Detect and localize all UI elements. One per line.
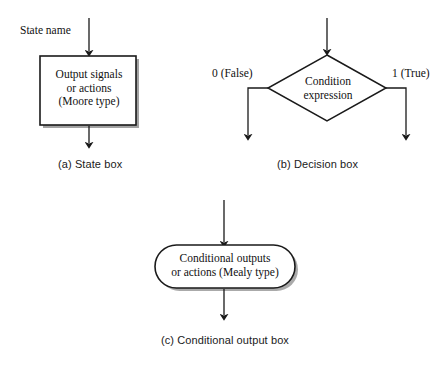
state-box-text: Output signals or actions (Moore type) xyxy=(41,68,137,109)
state-box-caption: (a) State box xyxy=(58,158,122,170)
decision-branch-false-path xyxy=(248,88,268,135)
decision-box-caption: (b) Decision box xyxy=(277,158,358,170)
state-box-text-line-2: or actions xyxy=(41,82,137,96)
asm-chart-figure xyxy=(0,0,448,367)
conditional-box-text-line-2: or actions (Mealy type) xyxy=(156,266,294,280)
decision-box-text: Condition expression xyxy=(290,75,366,102)
state-box-text-line-1: Output signals xyxy=(41,68,137,82)
conditional-output-box-caption: (c) Conditional output box xyxy=(161,334,289,346)
decision-branch-true-path xyxy=(386,88,406,135)
conditional-box-text-line-1: Conditional outputs xyxy=(156,252,294,266)
state-name-label: State name xyxy=(20,24,71,36)
conditional-output-box-text: Conditional outputs or actions (Mealy ty… xyxy=(156,252,294,279)
decision-box-text-line-2: expression xyxy=(290,89,366,103)
decision-false-label: 0 (False) xyxy=(212,67,253,79)
decision-true-label: 1 (True) xyxy=(392,67,430,79)
state-box-text-line-3: (Moore type) xyxy=(41,95,137,109)
decision-box-text-line-1: Condition xyxy=(290,75,366,89)
